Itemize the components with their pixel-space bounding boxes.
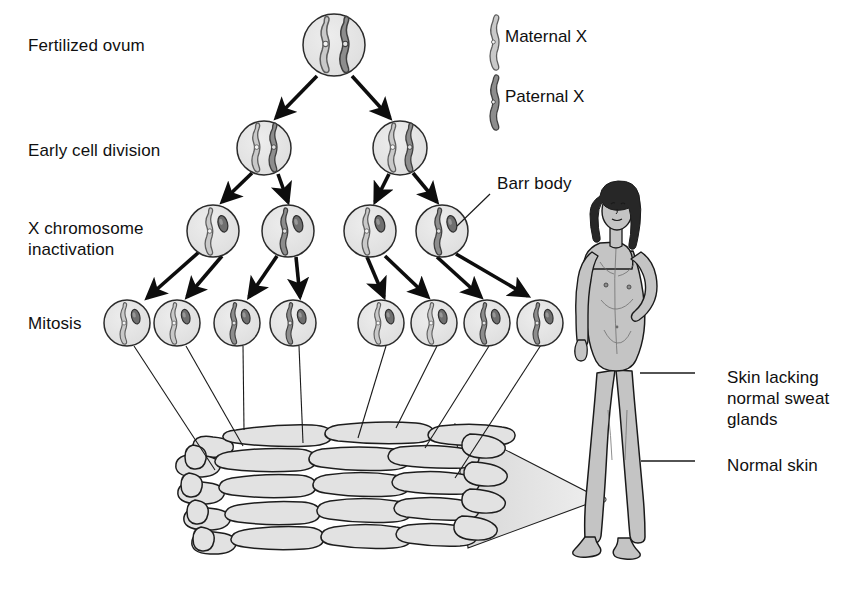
female-figure xyxy=(573,181,657,559)
callout-label-normal-skin: Normal skin xyxy=(727,455,818,476)
callout-label-skin-lacking-sweat-glands-line3: glands xyxy=(727,409,778,430)
cell-ovum-1 xyxy=(303,14,365,76)
arrow-inact4-to-mito8 xyxy=(456,254,528,296)
connector-1 xyxy=(134,346,215,470)
maternal-x-icon xyxy=(490,15,499,70)
arrow-inact3-to-mito6 xyxy=(385,256,428,297)
cell-mito-5 xyxy=(358,300,404,346)
arrow-early1-to-inact2 xyxy=(278,174,288,202)
cell-mito-8 xyxy=(517,300,563,346)
arrow-inact2-to-mito4 xyxy=(296,257,300,297)
x-inactivation-diagram xyxy=(0,0,851,591)
cell-mito-1 xyxy=(104,300,150,346)
stage-label-early-cell-division: Early cell division xyxy=(28,140,160,161)
arrow-inact3-to-mito5 xyxy=(367,257,384,297)
legend-label-paternal-x: Paternal X xyxy=(505,87,584,107)
arrow-inact2-to-mito3 xyxy=(249,256,277,297)
callout-leaders xyxy=(640,373,695,461)
arrow-inact1-to-mito2 xyxy=(187,256,222,297)
stage-label-fertilized-ovum: Fertilized ovum xyxy=(28,35,145,56)
cell-mito-4 xyxy=(270,300,316,346)
cell-mito-2 xyxy=(154,300,200,346)
cell-inact-3 xyxy=(344,205,396,257)
connector-3 xyxy=(243,346,244,430)
arrow-ovum-to-early-2 xyxy=(352,76,390,118)
connector-2 xyxy=(186,346,243,446)
connector-6 xyxy=(396,346,437,428)
stage-label-mitosis: Mitosis xyxy=(28,313,82,334)
stage-label-x-chromosome-inactivation-second-line: inactivation xyxy=(28,239,114,260)
callout-label-skin-lacking-sweat-glands-line2: normal sweat xyxy=(727,388,829,409)
cell-inact-1 xyxy=(187,205,239,257)
diagram-canvas: Fertilized ovum Early cell division X ch… xyxy=(0,0,851,591)
skin-tissue-block xyxy=(176,422,515,554)
arrow-early1-to-inact1 xyxy=(222,173,252,202)
legend-label-maternal-x: Maternal X xyxy=(505,27,587,47)
callout-label-skin-lacking-sweat-glands: Skin lacking xyxy=(727,367,819,388)
legend-swatches xyxy=(490,15,499,130)
stage-label-x-chromosome-inactivation: X chromosome xyxy=(28,218,144,239)
cell-inact-2 xyxy=(262,205,314,257)
paternal-x-icon xyxy=(490,75,499,130)
cell-mito-3 xyxy=(214,300,260,346)
cell-early-2 xyxy=(373,121,427,175)
callout-label-barr-body: Barr body xyxy=(497,173,572,194)
cell-mito-7 xyxy=(464,300,510,346)
barr-body-leader xyxy=(457,194,490,226)
arrow-early2-to-inact3 xyxy=(375,174,389,202)
arrow-ovum-to-early-1 xyxy=(276,76,317,118)
cell-mito-6 xyxy=(411,300,457,346)
cell-early-1 xyxy=(237,121,291,175)
division-arrows xyxy=(147,76,528,298)
arrow-early2-to-inact4 xyxy=(413,173,437,202)
cell-inact-4 xyxy=(416,205,468,257)
